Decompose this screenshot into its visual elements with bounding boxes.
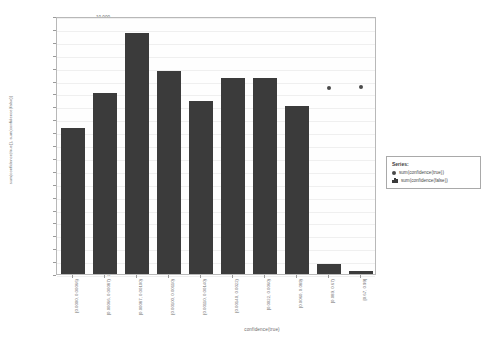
- x-tick-mark: [232, 275, 233, 278]
- x-tick-label: [0.0022, 0.0060): [266, 279, 271, 310]
- x-tick-label: [0.089, 0.67): [330, 279, 335, 303]
- x-tick-label: [0.00100, 0.00110): [170, 279, 175, 315]
- data-point[interactable]: [327, 86, 331, 90]
- x-tick-mark: [200, 275, 201, 278]
- x-axis-title: confidence(true): [244, 327, 280, 332]
- x-tick-label: [0.00066, 0.00087): [106, 279, 111, 315]
- legend-item-confidence-true[interactable]: sum(confidence(true)): [392, 170, 476, 175]
- data-point[interactable]: [359, 85, 363, 89]
- x-tick-mark: [328, 275, 329, 278]
- x-tick-label: [0.67, 0.99]: [362, 279, 367, 301]
- x-tick-mark: [296, 275, 297, 278]
- x-tick-mark: [136, 275, 137, 278]
- legend-item-label: sum(confidence(false)): [401, 178, 448, 183]
- legend-title: Series:: [392, 161, 476, 167]
- x-tick-mark: [264, 275, 265, 278]
- legend-item-confidence-false[interactable]: sum(confidence(false)): [392, 178, 476, 183]
- x-tick-mark: [168, 275, 169, 278]
- x-tick-mark: [360, 275, 361, 278]
- legend: Series: sum(confidence(true)) sum(confid…: [386, 156, 481, 189]
- chart-canvas: sum(confidence(true)), sum(confidence(fa…: [0, 0, 489, 349]
- y-tick-mark: [53, 275, 56, 276]
- x-tick-mark: [72, 275, 73, 278]
- x-tick-label: [0.0060, 0.089): [298, 279, 303, 308]
- x-tick-label: [0.00140, 0.0022): [234, 279, 239, 313]
- x-tick-label: [0.0000, 0.00066): [74, 279, 79, 313]
- x-tick-mark: [104, 275, 105, 278]
- dot-series: [57, 18, 375, 274]
- x-axis-title-wrapper: confidence(true): [0, 327, 489, 332]
- dot-marker-icon: [392, 171, 396, 175]
- y-axis-title-wrapper: sum(confidence(true)), sum(confidence(fa…: [0, 0, 20, 300]
- bar-marker-icon: [392, 178, 398, 183]
- y-axis-title: sum(confidence(true)), sum(confidence(fa…: [8, 60, 13, 220]
- legend-item-label: sum(confidence(true)): [399, 170, 444, 175]
- plot-area: [56, 17, 376, 275]
- x-tick-label: [0.00087, 0.00100): [138, 279, 143, 315]
- x-tick-label: [0.00110, 0.00140): [202, 279, 207, 315]
